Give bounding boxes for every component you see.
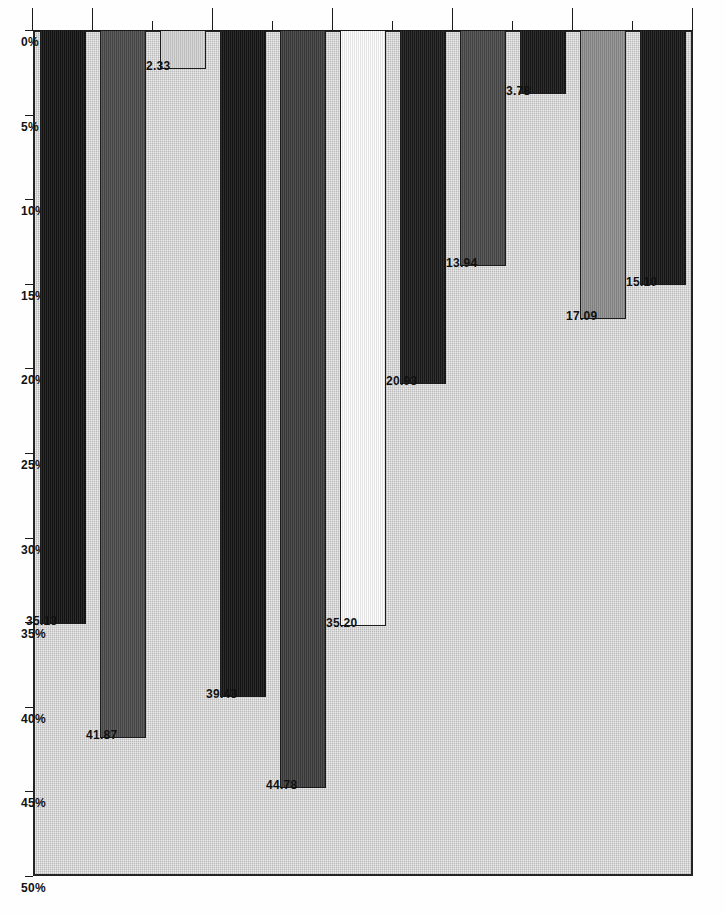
- category-tick: [392, 21, 393, 30]
- bar-4: [400, 30, 447, 384]
- category-tick: [212, 8, 213, 30]
- bar-6: [280, 30, 327, 788]
- rotated-figure-wrapper: 50%45%40%35%30%25%20%15%10%5%0% Administ…: [0, 0, 726, 914]
- category-tick: [632, 21, 633, 30]
- category-tick: [332, 8, 333, 30]
- category-tick: [272, 21, 273, 30]
- bar-value-label: 3.78: [506, 84, 531, 98]
- category-tick: [512, 21, 513, 30]
- bar-chart: 50%45%40%35%30%25%20%15%10%5%0% Administ…: [0, 0, 726, 914]
- bar-1: [580, 30, 627, 319]
- bar-5: [340, 30, 387, 626]
- value-tick: [25, 876, 33, 877]
- bar-value-label: 39.43: [206, 687, 238, 701]
- category-tick: [692, 8, 693, 30]
- bar-10: [40, 30, 87, 624]
- bar-9: [100, 30, 147, 738]
- bar-value-label: 44.78: [266, 778, 298, 792]
- value-tick: [25, 707, 33, 708]
- bar-7: [220, 30, 267, 697]
- category-tick: [92, 8, 93, 30]
- bar-value-label: 17.09: [566, 309, 598, 323]
- value-tick-label: 45%: [21, 796, 46, 810]
- value-tick: [25, 368, 33, 369]
- value-tick: [25, 791, 33, 792]
- value-tick: [25, 538, 33, 539]
- bar-value-label: 35.13: [26, 614, 58, 628]
- category-tick: [452, 8, 453, 30]
- bar-value-label: 2.33: [146, 59, 171, 73]
- value-tick-label: 40%: [21, 712, 46, 726]
- value-tick: [25, 199, 33, 200]
- bar-value-label: 35.20: [326, 616, 358, 630]
- bar-value-label: 15.10: [626, 275, 658, 289]
- value-tick-label: 5%: [21, 120, 39, 134]
- bar-3: [460, 30, 507, 266]
- value-tick-label: 50%: [21, 881, 46, 895]
- value-tick: [25, 30, 33, 31]
- value-tick: [25, 453, 33, 454]
- chart-page: 50%45%40%35%30%25%20%15%10%5%0% Administ…: [0, 0, 726, 914]
- value-tick: [25, 284, 33, 285]
- category-tick: [572, 8, 573, 30]
- category-tick: [32, 8, 33, 30]
- value-tick-label: 35%: [21, 627, 46, 641]
- bar-0: [640, 30, 687, 285]
- bar-value-label: 41.87: [86, 728, 118, 742]
- value-tick-label: 0%: [21, 35, 39, 49]
- bar-value-label: 13.94: [446, 256, 478, 270]
- category-tick: [152, 21, 153, 30]
- value-tick: [25, 115, 33, 116]
- bar-value-label: 20.93: [386, 374, 418, 388]
